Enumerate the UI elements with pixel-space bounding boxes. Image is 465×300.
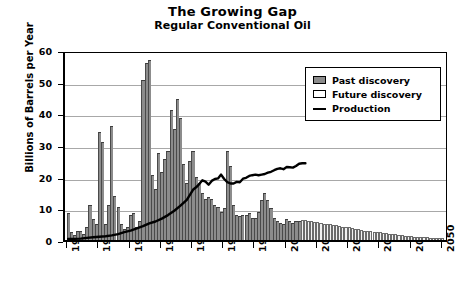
y-tick-label: 50 xyxy=(8,79,52,88)
legend-swatch-future-icon xyxy=(313,90,326,98)
chart-root: The Growing Gap Regular Conventional Oil… xyxy=(0,0,465,300)
y-tick-label: 30 xyxy=(8,142,52,151)
legend-item-production: Production xyxy=(313,101,434,115)
chart-title-block: The Growing Gap Regular Conventional Oil xyxy=(0,4,465,33)
legend-item-future-discovery: Future discovery xyxy=(313,87,434,101)
legend-label-past: Past discovery xyxy=(332,75,410,86)
legend-swatch-production-icon xyxy=(313,108,326,110)
y-tick-label: 0 xyxy=(8,237,52,246)
legend: Past discovery Future discovery Producti… xyxy=(305,67,441,121)
y-tick-label: 20 xyxy=(8,174,52,183)
legend-label-future: Future discovery xyxy=(332,89,422,100)
legend-item-past-discovery: Past discovery xyxy=(313,73,434,87)
y-tick-label: 40 xyxy=(8,110,52,119)
legend-label-production: Production xyxy=(332,103,390,114)
chart-subtitle: Regular Conventional Oil xyxy=(0,19,465,33)
y-tick-label: 60 xyxy=(8,47,52,56)
page-title: The Growing Gap xyxy=(0,4,465,19)
y-tick-label: 10 xyxy=(8,205,52,214)
legend-swatch-past-icon xyxy=(313,76,326,84)
y-axis-title: Billions of Barrels per Year xyxy=(24,13,35,183)
y-tick-mark xyxy=(58,242,63,243)
